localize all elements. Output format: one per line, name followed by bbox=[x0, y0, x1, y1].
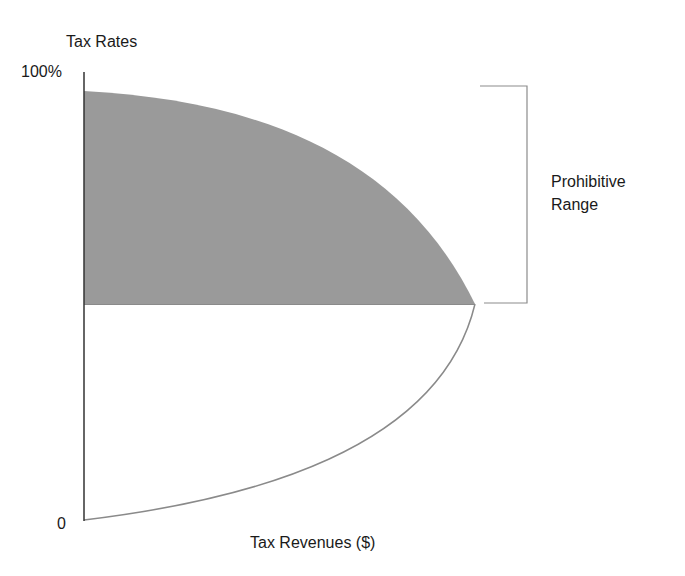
laffer-curve-chart bbox=[0, 0, 685, 576]
prohibitive-range-bracket bbox=[480, 86, 527, 303]
prohibitive-range-label-line2: Range bbox=[551, 195, 598, 214]
prohibitive-range-label-line1: Prohibitive bbox=[551, 172, 626, 191]
x-axis-title: Tax Revenues ($) bbox=[250, 533, 375, 552]
laffer-curve-lower bbox=[84, 304, 475, 520]
y-axis-title: Tax Rates bbox=[66, 32, 137, 51]
prohibitive-range-shading bbox=[84, 91, 475, 304]
y-tick-0: 0 bbox=[57, 514, 66, 533]
y-tick-100: 100% bbox=[21, 62, 62, 81]
